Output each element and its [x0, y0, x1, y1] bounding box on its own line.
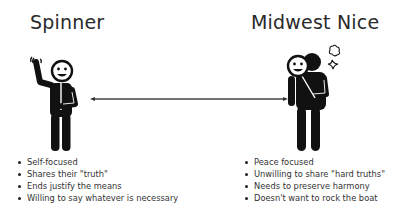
list-item: Ends justify the means [17, 180, 178, 192]
list-item: Shares their "truth" [17, 168, 178, 180]
spinner-traits-list: Self-focused Shares their "truth" Ends j… [17, 156, 178, 204]
list-item: Needs to preserve harmony [244, 180, 385, 192]
spinner-title: Spinner [30, 11, 104, 33]
waving-person-icon [26, 52, 82, 152]
midwest-nice-traits-list: Peace focused Unwilling to share "hard t… [244, 156, 385, 204]
list-item: Peace focused [244, 156, 385, 168]
list-item: Self-focused [17, 156, 178, 168]
list-item: Willing to say whatever is necessary [17, 192, 178, 204]
list-item: Unwilling to share "hard truths" [244, 168, 385, 180]
masked-person-icon [282, 44, 368, 152]
midwest-nice-title: Midwest Nice [251, 11, 379, 33]
double-arrow-connector [90, 94, 288, 104]
list-item: Doesn't want to rock the boat [244, 192, 385, 204]
